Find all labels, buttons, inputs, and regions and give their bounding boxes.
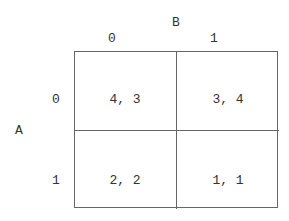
row-divider bbox=[74, 130, 279, 131]
payoff-cell-1-1: 1, 1 bbox=[177, 174, 279, 187]
payoff-cell-0-1: 3, 4 bbox=[177, 93, 279, 106]
row-strategy-0: 0 bbox=[52, 93, 60, 106]
row-strategy-1: 1 bbox=[52, 174, 60, 187]
col-strategy-0: 0 bbox=[108, 32, 116, 45]
payoff-cell-1-0: 2, 2 bbox=[74, 174, 176, 187]
col-strategy-1: 1 bbox=[210, 32, 218, 45]
player-a-label: A bbox=[15, 124, 23, 137]
payoff-cell-0-0: 4, 3 bbox=[74, 93, 176, 106]
player-b-label: B bbox=[172, 16, 180, 29]
